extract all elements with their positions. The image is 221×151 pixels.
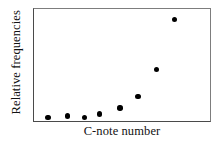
y-axis-label-text: Relative frequencies — [10, 10, 23, 114]
data-point — [154, 67, 159, 72]
data-point — [135, 94, 140, 99]
y-axis-label: Relative frequencies — [0, 0, 33, 124]
x-axis-label: C-note number — [33, 125, 211, 139]
data-point — [117, 105, 122, 110]
data-point — [82, 115, 87, 120]
x-axis-label-text: C-note number — [84, 124, 161, 138]
data-point — [65, 113, 70, 118]
plot-area — [33, 8, 211, 122]
scatter-series — [34, 9, 210, 121]
data-point — [172, 17, 177, 22]
figure: Relative frequencies C-note number — [0, 0, 221, 151]
data-point — [97, 111, 102, 116]
data-point — [45, 115, 50, 120]
